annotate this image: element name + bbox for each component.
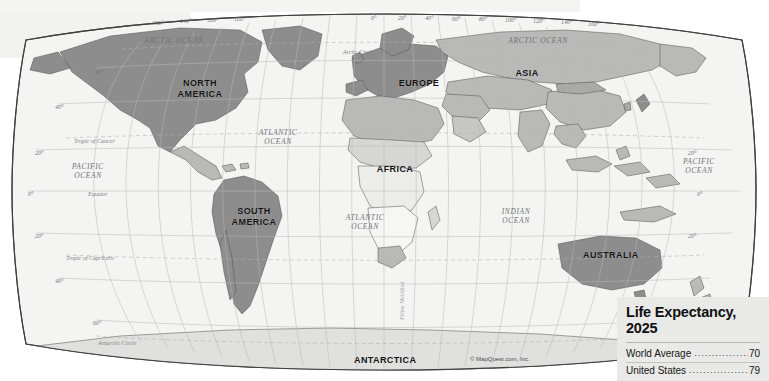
ocean-label-line: ATLANTIC (339, 213, 391, 222)
graticule-label: 140° (180, 18, 191, 24)
graticule-label: 20° (35, 150, 43, 156)
graticule-label: 140° (561, 19, 572, 25)
ocean-label-line: PACIFIC (60, 162, 116, 171)
graticule-label: 0° (371, 15, 376, 21)
continent-label-line: ANTARCTICA (354, 355, 416, 366)
continent-label-line: NORTH (170, 78, 230, 89)
graticule-label: 0° (28, 191, 33, 197)
continent-label-line: SOUTH (228, 206, 280, 217)
special-line-label-equator: Equator (88, 191, 108, 197)
ocean-label-line: OCEAN (252, 137, 304, 146)
ocean-label-line: ATLANTIC (252, 128, 304, 137)
ocean-label-atlantic-ocean-south: ATLANTICOCEAN (339, 213, 391, 231)
ocean-label-pacific-ocean-west: PACIFICOCEAN (60, 162, 116, 180)
legend-title-line1: Life Expectancy, (626, 305, 760, 321)
continent-label-antarctica: ANTARCTICA (354, 355, 416, 366)
continent-label-asia: ASIA (511, 68, 543, 79)
legend-divider (626, 342, 760, 343)
legend-row: United States...........................… (626, 363, 760, 379)
ocean-label-line: OCEAN (60, 171, 116, 180)
legend-row-value: 79 (749, 365, 760, 376)
ocean-label-line: ARCTIC OCEAN (142, 36, 206, 45)
continent-label-line: AFRICA (374, 164, 416, 175)
continent-label-line: ASIA (511, 68, 543, 79)
graticule-label: 60° (452, 16, 460, 22)
graticule-label: 20° (398, 15, 406, 21)
ocean-label-line: ARCTIC OCEAN (506, 36, 570, 45)
legend-title-line2: 2025 (626, 321, 760, 337)
continent-label-line: EUROPE (396, 78, 442, 89)
special-line-label-arctic-circle: Arctic Circle (343, 49, 374, 55)
legend-row-label: World Average (626, 348, 691, 359)
mapquest-credit: © MapQuest.com, Inc. (470, 356, 530, 362)
graticule-label: 120° (207, 17, 218, 23)
legend-row-leader-dots: .............................. (694, 348, 748, 358)
graticule-label: 40° (55, 104, 63, 110)
ocean-label-indian-ocean: INDIANOCEAN (494, 207, 538, 225)
legend-row-leader-dots: .............................. (689, 365, 748, 375)
legend-rows: World Average...........................… (626, 346, 760, 379)
legend-row-value: 70 (749, 348, 760, 359)
continent-label-line: AUSTRALIA (583, 250, 635, 261)
continent-label-north-america: NORTHAMERICA (170, 78, 230, 100)
legend-row: World Average...........................… (626, 346, 760, 363)
continent-label-line: AMERICA (170, 89, 230, 100)
legend-panel: Life Expectancy, 2025 World Average.....… (617, 297, 769, 381)
legend-row-label: United States (626, 365, 686, 376)
graticule-label: 100° (505, 17, 516, 23)
continent-label-line: AMERICA (228, 217, 280, 228)
continent-label-africa: AFRICA (374, 164, 416, 175)
ocean-label-line: INDIAN (494, 207, 538, 216)
continent-label-europe: EUROPE (396, 78, 442, 89)
graticule-label: 60° (95, 69, 103, 75)
map-page: NORTHAMERICASOUTHAMERICAEUROPEAFRICAASIA… (0, 0, 769, 381)
ocean-label-line: OCEAN (339, 222, 391, 231)
graticule-label: 40° (425, 15, 433, 21)
graticule-label: 20° (688, 233, 696, 239)
graticule-label: 80° (479, 16, 487, 22)
ocean-label-line: OCEAN (494, 216, 538, 225)
ocean-label-atlantic-ocean-north: ATLANTICOCEAN (252, 128, 304, 146)
continent-label-south-america: SOUTHAMERICA (228, 206, 280, 228)
graticule-label: 0° (697, 191, 702, 197)
graticule-label: 60° (93, 320, 101, 326)
ocean-label-pacific-ocean-east: PACIFICOCEAN (677, 157, 721, 175)
ocean-label-line: OCEAN (677, 166, 721, 175)
special-line-label-prime-meridian: Prime Meridian (399, 282, 405, 321)
ocean-label-arctic-ocean-east: ARCTIC OCEAN (506, 36, 570, 45)
ocean-label-arctic-ocean-west: ARCTIC OCEAN (142, 36, 206, 45)
graticule-label: 160° (152, 20, 163, 26)
special-line-label-tropic-of-capricorn: Tropic of Capricorn (66, 255, 114, 261)
graticule-label: 20° (688, 150, 696, 156)
continent-label-australia: AUSTRALIA (583, 250, 635, 261)
graticule-label: 100° (234, 16, 245, 22)
graticule-label: 20° (35, 233, 43, 239)
ocean-label-line: PACIFIC (677, 157, 721, 166)
graticule-label: 160° (588, 21, 599, 27)
special-line-label-tropic-of-cancer: Tropic of Cancer (74, 138, 115, 144)
legend-title: Life Expectancy, 2025 (626, 305, 760, 336)
graticule-label: 120° (533, 18, 544, 24)
special-line-label-antarctic-circle: Antarctic Circle (98, 340, 136, 346)
graticule-label: 40° (55, 278, 63, 284)
